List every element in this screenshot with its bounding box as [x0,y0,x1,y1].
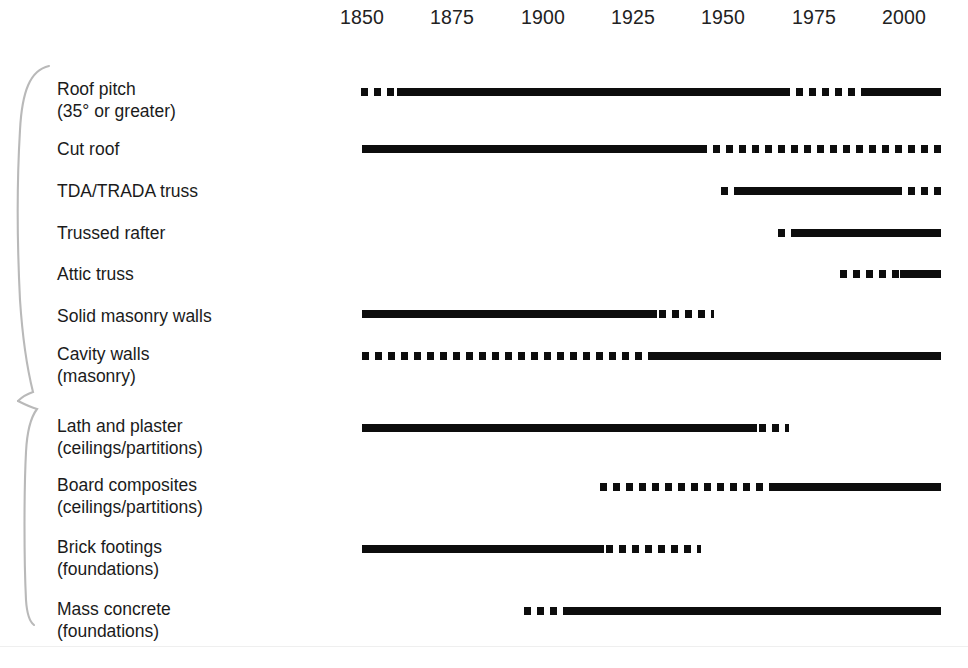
row-label: Board composites(ceilings/partitions) [57,474,203,518]
timeline-bar-segment-dashed [362,352,649,360]
row-label-line2: (foundations) [57,558,162,580]
row-label: Trussed rafter [57,222,165,244]
row-label: Mass concrete(foundations) [57,598,171,642]
timeline-bar-segment-solid [362,424,757,432]
row-label-line1: Roof pitch [57,79,136,99]
row-label-line2: (foundations) [57,620,171,642]
row-label-line1: Board composites [57,475,197,495]
row-label: Roof pitch(35° or greater) [57,78,176,122]
row-label: Brick footings(foundations) [57,536,162,580]
timeline-bar-segment-dashed [895,187,941,195]
timeline-bar-segment-dashed [759,424,789,432]
timeline-bar-segment-solid [741,187,895,195]
timeline-bar-segment-dashed [606,545,701,553]
timeline-bar-segment-solid [900,270,941,278]
timeline-bar-segment-solid [865,88,941,96]
row-label-line1: Brick footings [57,537,162,557]
row-label-line2: (masonry) [57,365,149,387]
timeline-rows: Roof pitch(35° or greater)Cut roofTDA/TR… [0,0,968,668]
timeline-bar-segment-dashed [361,88,397,96]
row-label-line2: (ceilings/partitions) [57,496,203,518]
row-label-line1: Cut roof [57,139,119,159]
row-label-line1: Lath and plaster [57,416,183,436]
timeline-bar-segment-solid [773,483,941,491]
row-label-line1: Attic truss [57,264,134,284]
timeline-bar-segment-dashed [524,607,564,615]
row-label: Attic truss [57,263,134,285]
row-label: Cut roof [57,138,119,160]
row-label: TDA/TRADA truss [57,180,198,202]
bottom-divider [0,646,968,647]
row-label-line1: Cavity walls [57,344,149,364]
timeline-bar-segment-dashed [600,483,773,491]
timeline-bar-segment-solid [362,545,604,553]
row-label-line1: Solid masonry walls [57,306,212,326]
timeline-bar-segment-dashed [778,229,796,237]
timeline-bar-segment-dashed [659,310,714,318]
row-label-line1: TDA/TRADA truss [57,181,198,201]
row-label: Cavity walls(masonry) [57,343,149,387]
timeline-bar-segment-dashed [721,187,741,195]
timeline-bar-segment-solid [649,352,941,360]
timeline-bar-segment-solid [564,607,941,615]
row-label-line2: (ceilings/partitions) [57,437,203,459]
row-label: Lath and plaster(ceilings/partitions) [57,415,203,459]
row-label: Solid masonry walls [57,305,212,327]
timeline-bar-segment-solid [397,88,783,96]
timeline-bar-segment-dashed [700,145,941,153]
row-label-line1: Trussed rafter [57,223,165,243]
row-label-line1: Mass concrete [57,599,171,619]
timeline-bar-segment-dashed [783,88,865,96]
row-label-line2: (35° or greater) [57,100,176,122]
timeline-chart-page: 1850187519001925195019752000 Roof pitch(… [0,0,968,668]
timeline-bar-segment-solid [796,229,941,237]
timeline-bar-segment-dashed [840,270,900,278]
timeline-bar-segment-solid [362,310,657,318]
timeline-bar-segment-solid [362,145,700,153]
